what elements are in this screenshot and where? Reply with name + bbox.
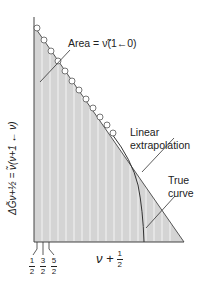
x-tick-1: 12 bbox=[29, 256, 35, 276]
x-tick-5: 52 bbox=[51, 256, 57, 276]
area-annotation: Area = ν̃(1←0) bbox=[68, 37, 137, 49]
x-tick-3: 32 bbox=[40, 256, 46, 276]
linear-label-line1: Linear bbox=[130, 126, 159, 138]
linear-label-line2: extrapolation bbox=[130, 139, 190, 151]
y-axis-label: ΔG̃ν+½ = ν̃(ν+1 ← ν) bbox=[7, 121, 18, 215]
true-label-line1: True bbox=[168, 174, 189, 186]
true-label-line2: curve bbox=[168, 187, 194, 199]
x-axis-label: ν + 12 bbox=[96, 249, 123, 269]
